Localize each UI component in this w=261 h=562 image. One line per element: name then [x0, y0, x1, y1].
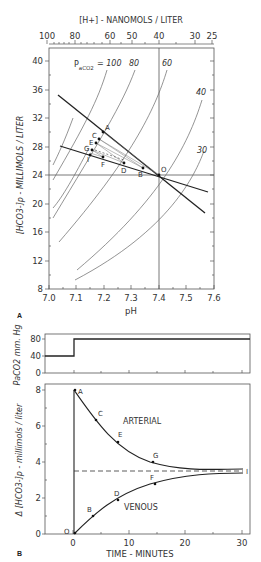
- asymptote-label: I: [246, 468, 248, 476]
- svg-text:4: 4: [36, 457, 41, 467]
- isobar-30-hidden: [55, 151, 204, 271]
- point-labels-b: A C E G O B D F: [64, 388, 158, 536]
- svg-text:0: 0: [36, 529, 41, 539]
- svg-text:60: 60: [105, 31, 116, 41]
- svg-text:0: 0: [70, 538, 75, 548]
- top-axis-title: [H+] - NANOMOLS / LITER: [79, 16, 183, 25]
- x-axis-title-b: TIME - MINUTES: [105, 549, 173, 559]
- svg-text:50: 50: [127, 31, 138, 41]
- svg-text:E: E: [118, 431, 122, 439]
- svg-text:28: 28: [32, 142, 43, 152]
- svg-text:30: 30: [190, 31, 201, 41]
- isobar-100: [53, 70, 107, 180]
- svg-text:I: I: [87, 156, 89, 164]
- svg-text:8: 8: [36, 385, 41, 395]
- svg-text:D: D: [114, 490, 119, 498]
- svg-text:A: A: [78, 388, 83, 396]
- svg-text:C: C: [98, 410, 103, 418]
- svg-text:100: 100: [39, 31, 55, 41]
- point-labels-a: A C E G I F D B O: [84, 124, 167, 179]
- svg-text:G: G: [84, 145, 89, 153]
- x-axis-ticks-a: [49, 285, 214, 289]
- venous-curve: [74, 473, 243, 534]
- pco2-isobars-lower: [53, 118, 89, 208]
- svg-text:7.5: 7.5: [179, 293, 193, 303]
- svg-text:7.6: 7.6: [207, 293, 221, 303]
- svg-text:2: 2: [36, 493, 41, 503]
- top-axis-ticks: 100 80 60 50 40 30 25: [39, 31, 218, 41]
- svg-text:B: B: [138, 171, 143, 179]
- svg-text:E: E: [89, 139, 93, 147]
- y-axis-labels-a: 40 36 32 28 24 20 16 12 8: [32, 56, 43, 294]
- svg-text:F: F: [101, 161, 105, 169]
- svg-text:40: 40: [154, 31, 165, 41]
- svg-text:36: 36: [32, 85, 43, 95]
- isobar-label-80: 80: [129, 59, 139, 68]
- plot-frame-b-top: [45, 334, 250, 373]
- svg-text:80: 80: [30, 334, 41, 344]
- figure-canvas: [H+] - NANOMOLS / LITER 100 80 60 50 40 …: [0, 0, 261, 562]
- arterial-label: ARTERIAL: [123, 417, 162, 426]
- svg-text:7.4: 7.4: [152, 293, 166, 303]
- svg-text:30: 30: [237, 538, 248, 548]
- svg-text:80: 80: [70, 31, 81, 41]
- isobar-labels: PaCO2 = 100 80 60 40 30: [74, 59, 207, 155]
- svg-text:32: 32: [32, 113, 43, 123]
- svg-text:O: O: [161, 166, 167, 174]
- panel-a: [H+] - NANOMOLS / LITER 100 80 60 50 40 …: [16, 16, 221, 319]
- y-axis-title-b-top: PaCO2 mm. Hg: [13, 324, 22, 385]
- svg-text:0: 0: [36, 368, 41, 378]
- isobar-80: [53, 70, 135, 218]
- svg-text:20: 20: [32, 199, 43, 209]
- svg-text:7.0: 7.0: [42, 293, 56, 303]
- y-axis-title-b: Δ [HCO3-]p - millimols / liter: [15, 403, 24, 517]
- x-axis-labels-a: 7.0 7.1 7.2 7.3 7.4 7.5 7.6: [42, 293, 221, 303]
- isobar-label-40: 40: [196, 88, 206, 97]
- isobar-label-100: = 100: [97, 59, 122, 68]
- panel-label-b: B: [17, 550, 22, 557]
- y-axis-title-a: [HCO3-]p - MILLIMOLS / LITER: [16, 116, 25, 235]
- isobar-60: [59, 70, 167, 242]
- panel-b-top: 80 40 0 PaCO2 mm. Hg: [13, 324, 250, 385]
- svg-text:D: D: [121, 167, 126, 175]
- svg-text:20: 20: [180, 538, 191, 548]
- svg-text:24: 24: [32, 170, 43, 180]
- svg-text:6: 6: [36, 421, 41, 431]
- svg-text:40: 40: [32, 56, 43, 66]
- svg-text:40: 40: [30, 351, 41, 361]
- svg-text:F: F: [150, 474, 154, 482]
- isobar-label-30: 30: [197, 146, 207, 155]
- pco2-step-line: [45, 339, 250, 356]
- svg-text:12: 12: [32, 256, 43, 266]
- svg-text:B: B: [87, 506, 92, 514]
- svg-text:16: 16: [32, 227, 43, 237]
- pco2-symbol: PaCO2: [74, 60, 94, 71]
- panel-b: 8 6 4 2 0 0 10 20 30 TIME - MINUTES B Δ …: [15, 384, 250, 559]
- svg-text:G: G: [153, 452, 158, 460]
- svg-text:A: A: [105, 124, 110, 132]
- panel-label-a: A: [17, 312, 22, 319]
- venous-label: VENOUS: [124, 503, 158, 512]
- svg-text:10: 10: [124, 538, 135, 548]
- svg-text:7.2: 7.2: [97, 293, 111, 303]
- x-axis-title-a: pH: [125, 306, 137, 316]
- svg-text:7.1: 7.1: [69, 293, 83, 303]
- svg-text:O: O: [64, 528, 70, 536]
- svg-text:7.3: 7.3: [124, 293, 138, 303]
- isobar-label-60: 60: [162, 59, 172, 68]
- arterial-curve: [74, 390, 243, 469]
- svg-text:25: 25: [207, 31, 218, 41]
